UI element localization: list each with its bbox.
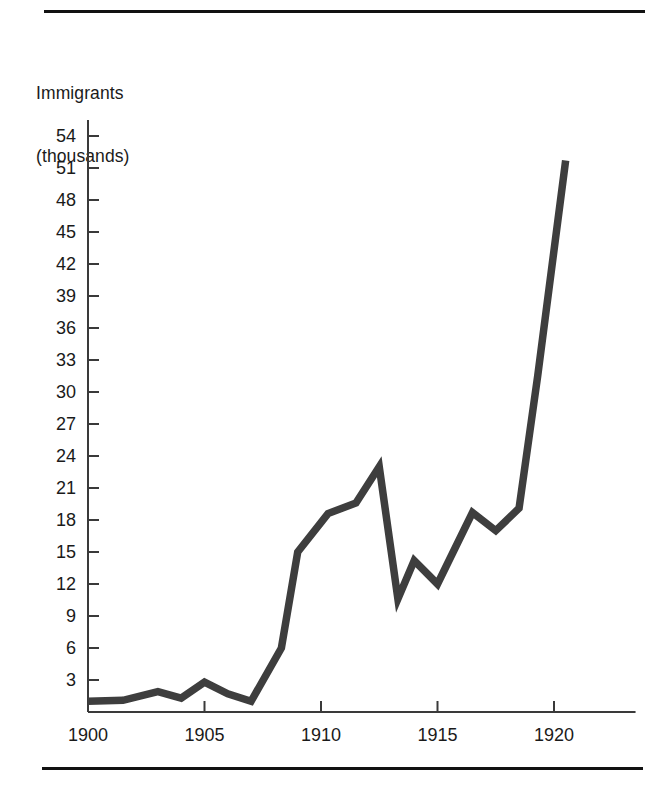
y-tick-label: 42: [56, 254, 76, 274]
y-tick-label: 3: [66, 670, 76, 690]
data-series-group: [88, 161, 566, 702]
y-tick-label: 21: [56, 478, 76, 498]
x-tick-label: 1905: [184, 725, 224, 745]
y-tick-label: 51: [56, 158, 76, 178]
y-tick-label: 30: [56, 382, 76, 402]
x-tick-label: 1900: [68, 725, 108, 745]
y-tick-label: 9: [66, 606, 76, 626]
x-tick-label: 1910: [301, 725, 341, 745]
y-tick-label: 39: [56, 286, 76, 306]
line-chart-plot: 369121518212427303336394245485154 190019…: [0, 0, 660, 791]
y-tick-label: 6: [66, 638, 76, 658]
x-tick-label: 1920: [534, 725, 574, 745]
y-tick-label: 48: [56, 190, 76, 210]
y-tick-label: 12: [56, 574, 76, 594]
series-line-immigrants: [88, 161, 566, 702]
x-tick-label: 1915: [417, 725, 457, 745]
y-tick-label: 54: [56, 126, 76, 146]
y-tick-label: 27: [56, 414, 76, 434]
y-tick-label: 24: [56, 446, 76, 466]
y-tick-label: 33: [56, 350, 76, 370]
y-tick-label: 45: [56, 222, 76, 242]
y-tick-label: 36: [56, 318, 76, 338]
y-tick-label: 15: [56, 542, 76, 562]
x-axis: 19001905191019151920: [68, 701, 636, 745]
figure-container: Immigrants (thousands) 36912151821242730…: [0, 0, 660, 791]
y-tick-label: 18: [56, 510, 76, 530]
y-axis: 369121518212427303336394245485154: [56, 120, 99, 712]
